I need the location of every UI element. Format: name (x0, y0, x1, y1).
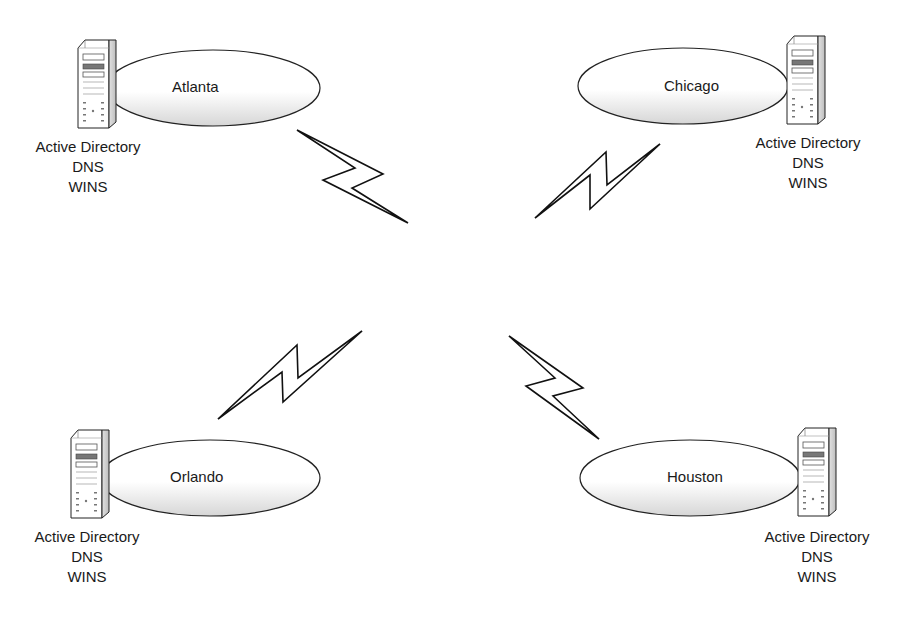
services-caption-chicago: Active Directory DNS WINS (738, 133, 878, 193)
site-label-orlando: Orlando (170, 468, 223, 485)
service-label: DNS (18, 157, 158, 177)
service-label: DNS (738, 153, 878, 173)
site-label-houston: Houston (667, 468, 723, 485)
lightning-bolt-icon (535, 144, 660, 218)
services-caption-orlando: Active Directory DNS WINS (17, 527, 157, 587)
site-label-chicago: Chicago (664, 77, 719, 94)
server-tower-icon (71, 430, 109, 518)
service-label: DNS (747, 547, 887, 567)
service-label: DNS (17, 547, 157, 567)
server-tower-icon (798, 428, 836, 516)
service-label: WINS (747, 567, 887, 587)
server-tower-icon (787, 36, 825, 124)
lightning-bolt-icon (218, 331, 362, 419)
service-label: Active Directory (738, 133, 878, 153)
services-caption-houston: Active Directory DNS WINS (747, 527, 887, 587)
service-label: Active Directory (747, 527, 887, 547)
service-label: WINS (18, 177, 158, 197)
lightning-bolt-icon (297, 130, 408, 223)
lightning-bolt-icon (509, 336, 599, 439)
server-tower-icon (78, 40, 116, 128)
services-caption-atlanta: Active Directory DNS WINS (18, 137, 158, 197)
site-label-atlanta: Atlanta (172, 78, 219, 95)
service-label: WINS (17, 567, 157, 587)
service-label: Active Directory (18, 137, 158, 157)
service-label: WINS (738, 173, 878, 193)
service-label: Active Directory (17, 527, 157, 547)
